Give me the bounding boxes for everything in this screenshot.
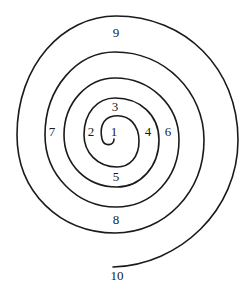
spiral-label-5: 5 (113, 169, 120, 184)
spiral-diagram: 1 2 3 4 5 6 7 8 9 10 (0, 0, 248, 297)
spiral-label-8: 8 (113, 212, 120, 227)
spiral-label-7: 7 (49, 124, 56, 139)
spiral-label-10: 10 (111, 268, 124, 283)
spiral-label-9: 9 (113, 25, 120, 40)
spiral-label-1: 1 (111, 124, 118, 139)
spiral-label-2: 2 (88, 124, 95, 139)
spiral-label-3: 3 (112, 99, 119, 114)
spiral-curve (17, 16, 238, 267)
spiral-label-6: 6 (165, 124, 172, 139)
spiral-label-4: 4 (145, 124, 152, 139)
